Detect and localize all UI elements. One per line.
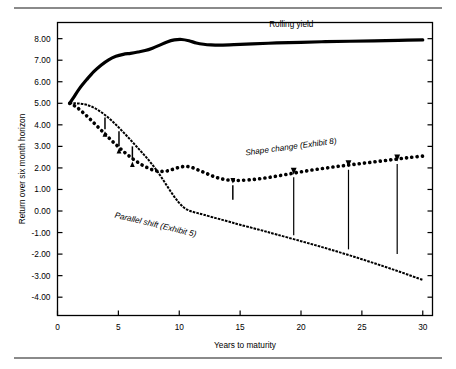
x-axis-title: Years to maturity (214, 340, 277, 350)
top-horizontal-rule (14, 7, 442, 9)
y-axis-title: Return over six month horizon (17, 113, 27, 224)
y-tick-label: 3.00 (34, 141, 51, 151)
x-tick-label: 15 (236, 322, 246, 332)
y-tick-label: 6.00 (34, 77, 51, 87)
x-tick-label: 30 (418, 322, 428, 332)
line-chart: 8.007.006.005.004.003.002.001.000.00-1.0… (0, 0, 456, 369)
x-tick-label: 20 (296, 322, 306, 332)
y-tick-label: 7.00 (34, 55, 51, 65)
chart-background (0, 0, 456, 369)
x-tick-label: 10 (175, 322, 185, 332)
y-tick-label: 5.00 (34, 98, 51, 108)
figure-container: 8.007.006.005.004.003.002.001.000.00-1.0… (0, 0, 456, 369)
y-tick-label: -2.00 (32, 249, 51, 259)
y-tick-label: 0.00 (34, 206, 51, 216)
y-tick-label: 1.00 (34, 184, 51, 194)
x-tick-label: 25 (357, 322, 367, 332)
bottom-horizontal-rule (14, 357, 442, 359)
series-label-0: Rolling yield (269, 20, 314, 29)
y-tick-label: -4.00 (32, 292, 51, 302)
y-tick-label: -3.00 (32, 271, 51, 281)
y-tick-label: 8.00 (34, 34, 51, 44)
x-tick-label: 5 (116, 322, 121, 332)
y-tick-label: 4.00 (34, 120, 51, 130)
y-tick-label: 2.00 (34, 163, 51, 173)
y-tick-label: -1.00 (32, 228, 51, 238)
x-tick-label: 0 (55, 322, 60, 332)
